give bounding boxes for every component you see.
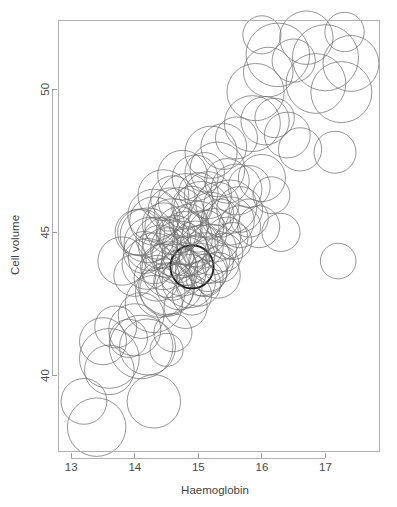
bubble-chart-figure: 1314151617 404550 Haemoglobin Cell volum…: [0, 0, 397, 507]
x-tick-label: 16: [256, 461, 269, 473]
y-axis-title: Cell volume: [9, 215, 21, 275]
y-tick-label: 50: [39, 83, 51, 96]
x-tick-label: 13: [65, 461, 78, 473]
y-tick-label: 45: [39, 226, 51, 239]
x-tick-label: 17: [319, 461, 332, 473]
x-tick-label: 14: [128, 461, 141, 473]
bubble-scatter-plot: 1314151617 404550 Haemoglobin Cell volum…: [0, 0, 397, 507]
y-tick-label: 40: [39, 369, 51, 382]
x-tick-label: 15: [192, 461, 205, 473]
x-axis-title: Haemoglobin: [181, 484, 249, 496]
